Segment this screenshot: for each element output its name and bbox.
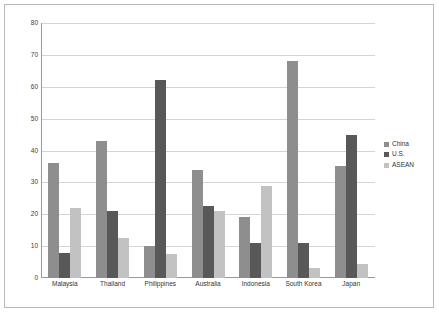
- bar[interactable]: [357, 264, 368, 278]
- bar[interactable]: [335, 166, 346, 278]
- legend-item[interactable]: U.S.: [384, 151, 434, 159]
- y-tick-label: 80: [4, 20, 38, 27]
- y-tick-label: 30: [4, 179, 38, 186]
- y-tick-label: 70: [4, 52, 38, 59]
- y-axis: 80 70 60 50 40 30 20 10 0: [0, 23, 38, 279]
- x-tick-label: South Korea: [280, 281, 328, 295]
- bar[interactable]: [144, 246, 155, 278]
- bar[interactable]: [346, 135, 357, 278]
- bar[interactable]: [287, 61, 298, 278]
- bar-group: [184, 23, 232, 278]
- y-tick-label: 20: [4, 211, 38, 218]
- bar[interactable]: [48, 163, 59, 278]
- legend-swatch-icon: [384, 163, 389, 168]
- legend-swatch-icon: [384, 142, 389, 147]
- bar[interactable]: [70, 208, 81, 278]
- legend-swatch-icon: [384, 152, 389, 157]
- bar[interactable]: [155, 80, 166, 278]
- x-tick-label: Japan: [327, 281, 375, 295]
- bar-group: [41, 23, 89, 278]
- x-tick-label: Thailand: [89, 281, 137, 295]
- legend-label: China: [392, 141, 409, 148]
- bar[interactable]: [192, 170, 203, 278]
- chart-legend: ChinaU.S.ASEAN: [384, 140, 434, 172]
- x-axis: MalaysiaThailandPhilippinesAustraliaIndo…: [41, 281, 375, 295]
- bars-layer: [41, 23, 375, 278]
- bar[interactable]: [96, 141, 107, 278]
- bar[interactable]: [214, 211, 225, 278]
- x-tick-label: Philippines: [136, 281, 184, 295]
- y-tick-label: 0: [4, 275, 38, 282]
- bar-group: [327, 23, 375, 278]
- bar-group: [232, 23, 280, 278]
- legend-label: U.S.: [392, 151, 405, 158]
- bar[interactable]: [118, 238, 129, 278]
- bar[interactable]: [203, 206, 214, 278]
- x-tick-label: Australia: [184, 281, 232, 295]
- bar[interactable]: [309, 268, 320, 278]
- x-tick-label: Indonesia: [232, 281, 280, 295]
- bar[interactable]: [239, 217, 250, 278]
- y-tick-label: 50: [4, 115, 38, 122]
- bar-group: [280, 23, 328, 278]
- y-tick-label: 10: [4, 243, 38, 250]
- bar-group: [89, 23, 137, 278]
- bar[interactable]: [298, 243, 309, 278]
- bar[interactable]: [261, 186, 272, 278]
- legend-label: ASEAN: [392, 162, 414, 169]
- bar-chart-figure: 80 70 60 50 40 30 20 10 0 MalaysiaThaila…: [0, 0, 439, 313]
- y-tick-label: 60: [4, 84, 38, 91]
- x-tick-label: Malaysia: [41, 281, 89, 295]
- legend-item[interactable]: China: [384, 140, 434, 148]
- bar[interactable]: [250, 243, 261, 278]
- y-tick-label: 40: [4, 147, 38, 154]
- bar[interactable]: [59, 253, 70, 279]
- bar-group: [136, 23, 184, 278]
- bar[interactable]: [107, 211, 118, 278]
- bar[interactable]: [166, 254, 177, 278]
- legend-item[interactable]: ASEAN: [384, 161, 434, 169]
